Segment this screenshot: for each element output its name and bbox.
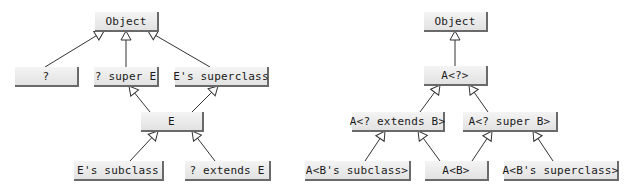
diagram-canvas: Object ? ? super E E's superclass E E's …	[0, 0, 627, 189]
node-extends-e: ? extends E	[185, 161, 271, 181]
edge-a-b-to-a-extends-b	[418, 131, 440, 161]
node-e: E	[141, 112, 204, 132]
node-a-extends-b: A<? extends B>	[352, 112, 445, 132]
edge-e-superclass-to-object	[148, 31, 210, 67]
edge-e-to-e-superclass	[192, 86, 218, 112]
node-object-left: Object	[95, 12, 159, 32]
edge-a-extends-b-to-a-unbounded	[420, 85, 440, 112]
edge-extends-e-to-e	[192, 131, 215, 161]
node-e-subclass: E's subclass	[74, 161, 164, 181]
node-object-right: Object	[424, 12, 488, 32]
edge-a-super-b-to-a-unbounded	[469, 85, 488, 112]
node-super-e: ? super E	[94, 67, 159, 87]
edge-e-to-super-e	[129, 86, 150, 112]
node-e-superclass: E's superclass	[175, 67, 269, 87]
edge-unbounded-to-object	[45, 31, 104, 67]
node-a-unbounded: A<?>	[424, 66, 488, 86]
node-a-b: A<B>	[425, 161, 489, 181]
node-a-b-superclass: A<B's superclass>	[504, 161, 619, 181]
edge-a-b-to-a-super-b	[472, 131, 492, 161]
node-a-super-b: A<? super B>	[463, 112, 558, 132]
edge-a-b-superclass-to-a-super-b	[533, 131, 553, 161]
edge-e-subclass-to-e	[130, 131, 158, 161]
edge-a-b-subclass-to-a-extends-b	[365, 131, 385, 161]
node-unbounded-wildcard: ?	[15, 67, 79, 87]
node-a-b-subclass: A<B's subclass>	[305, 161, 411, 181]
